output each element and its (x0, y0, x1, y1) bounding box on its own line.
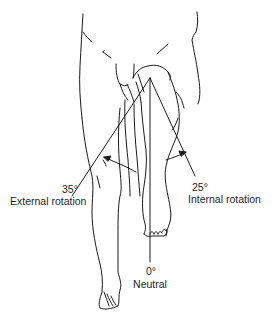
hip-rotation-diagram: 35° External rotation 0° Neutral 25° Int… (0, 0, 275, 315)
external-rotation-angle-label: 35° (62, 183, 78, 195)
neutral-label: Neutral (133, 278, 167, 290)
internal-rotation-label: Internal rotation (188, 193, 261, 205)
external-rotation-label: External rotation (10, 195, 86, 207)
leg-figure-illustration (0, 0, 275, 315)
internal-rotation-angle-label: 25° (192, 181, 208, 193)
internal-rotation-line (150, 78, 195, 176)
flexed-leg (141, 72, 184, 236)
rotation-arrows (104, 151, 186, 172)
standing-leg (82, 108, 121, 309)
pelvis-detail (116, 64, 170, 102)
neutral-angle-label: 0° (146, 265, 156, 277)
